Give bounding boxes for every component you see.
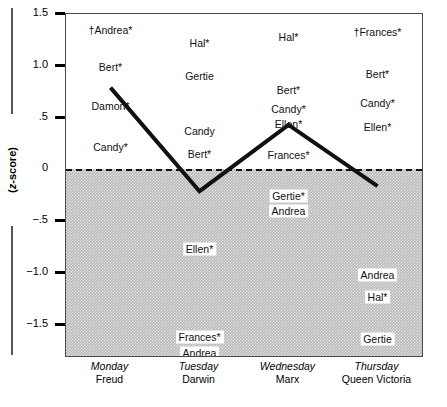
y-axis-tick-label: .5 [18,111,48,122]
point-label: Bert* [366,69,389,80]
y-axis-tick-label: 1.5 [18,7,48,18]
point-label: Gertie [185,71,214,82]
point-label: †Frances* [354,26,402,37]
point-label: Ellen* [364,121,391,132]
x-axis-category-labels: MondayFreudTuesdayDarwinWednesdayMarxThu… [65,360,421,392]
point-label: Hal* [190,38,210,49]
point-label: Frances* [267,149,309,160]
figure-caption-clipped [0,399,447,407]
point-label: Candy* [271,104,305,115]
point-label: †Andrea* [89,24,133,35]
point-label: Gertie [360,333,395,346]
point-label: Frances* [175,331,223,344]
point-label: Andrea [269,204,309,217]
y-axis-tick-mark [55,271,65,274]
chart-figure: (z-score) 1.51.0.50−.5−1.0−1.5 †Andrea*B… [0,0,447,407]
y-axis-tick-mark [55,323,65,326]
y-axis-tick-mark [55,64,65,67]
x-axis-category: ThursdayQueen Victoria [317,360,437,386]
point-label: Andrea [180,346,220,357]
y-axis-tick-label: −1.5 [18,318,48,329]
point-label: Ellen* [275,118,302,129]
y-axis-tick-label: 1.0 [18,59,48,70]
y-axis-tick-labels: 1.51.0.50−.5−1.0−1.5 [0,0,48,407]
point-label: Gertie* [269,190,308,203]
y-axis-tick-label: −1.0 [18,266,48,277]
point-label: Bert* [99,61,122,72]
point-label: Hal* [365,290,391,303]
y-axis-tick-label: 0 [18,162,48,173]
point-label: Damon* [92,101,130,112]
x-axis-category-person: Queen Victoria [317,373,437,386]
y-axis-tick-label: −.5 [18,214,48,225]
x-axis-category-day: Thursday [317,360,437,373]
point-label: Andrea [358,269,398,282]
point-label: Candy* [360,98,394,109]
y-axis-tick-mark [55,12,65,15]
point-label: Ellen* [183,243,216,256]
point-label: Candy [184,126,214,137]
plot-area: †Andrea*Bert*Damon*Candy*Hal*GertieCandy… [65,13,423,357]
point-label: Hal* [279,31,299,42]
point-label: Bert* [277,84,300,95]
point-label: Candy* [93,141,127,152]
y-axis-tick-mark [55,219,65,222]
point-label: Bert* [188,148,211,159]
y-axis-tick-mark [55,116,65,119]
